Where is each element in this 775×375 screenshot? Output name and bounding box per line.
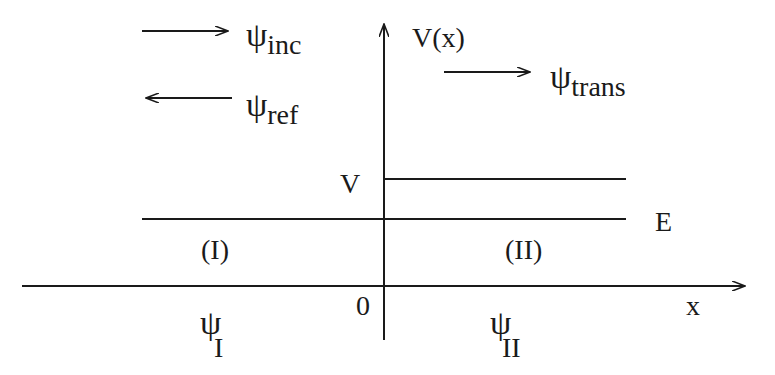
psi-symbol: ψ <box>550 58 571 95</box>
subscript: ref <box>267 99 298 130</box>
subscript: trans <box>571 71 625 102</box>
subscript: I <box>214 334 223 362</box>
subscript: inc <box>267 29 301 60</box>
energy-label: E <box>655 208 672 236</box>
subscript: II <box>502 334 521 362</box>
x-axis-label: x <box>686 292 700 320</box>
region-label-II: (II) <box>505 236 542 264</box>
region-I-wavefunction: ψ I <box>200 306 240 366</box>
reflected-wave-label: ψref <box>246 88 298 122</box>
y-axis-label: V(x) <box>412 24 465 52</box>
origin-label: 0 <box>356 292 370 320</box>
region-II-wavefunction: ψ II <box>490 306 540 366</box>
diagram-lines <box>0 0 775 375</box>
psi-symbol: ψ <box>246 86 267 123</box>
potential-label: V <box>340 170 360 198</box>
potential-step-diagram: ψinc ψref ψtrans V(x) V E (I) (II) 0 x ψ… <box>0 0 775 375</box>
incident-wave-label: ψinc <box>246 18 302 52</box>
region-label-I: (I) <box>201 236 229 264</box>
transmitted-wave-label: ψtrans <box>550 60 626 94</box>
psi-symbol: ψ <box>246 16 267 53</box>
